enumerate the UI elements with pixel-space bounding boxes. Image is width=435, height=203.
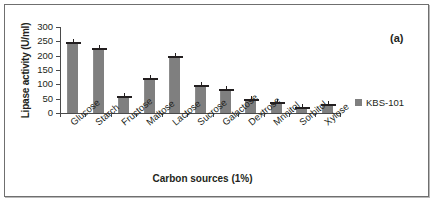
figure-frame: Lipase activity (U/ml) 05010015020025030… — [4, 4, 429, 197]
y-axis-tick-label: 0 — [23, 108, 53, 117]
x-axis-tick — [60, 113, 61, 117]
error-bar-whisker — [73, 39, 74, 43]
error-bar-whisker — [99, 45, 100, 49]
legend-label-kbs-101: KBS-101 — [366, 97, 404, 108]
y-axis-tick-label: 250 — [23, 36, 53, 45]
error-bar-whisker — [226, 86, 227, 90]
y-axis-tick-label: 50 — [23, 94, 53, 103]
y-axis-tick-label: 200 — [23, 51, 53, 60]
error-bar-whisker — [328, 101, 329, 105]
error-bar-whisker — [175, 53, 176, 57]
y-axis-tick-labels: 050100150200250300 — [23, 27, 53, 113]
y-axis-tick — [56, 27, 60, 28]
y-axis-tick-label: 150 — [23, 65, 53, 74]
y-axis-tick-label: 300 — [23, 22, 53, 31]
y-axis-tick — [56, 99, 60, 100]
bar — [67, 43, 78, 113]
error-bar-whisker — [150, 75, 151, 79]
x-axis-title: Carbon sources (1%) — [95, 173, 310, 184]
y-axis-tick — [56, 70, 60, 71]
y-axis-tick — [56, 56, 60, 57]
y-axis-tick — [56, 84, 60, 85]
y-axis-tick — [56, 41, 60, 42]
error-bar-whisker — [201, 82, 202, 86]
legend: KBS-101 — [355, 97, 404, 108]
y-axis-tick-label: 100 — [23, 79, 53, 88]
y-axis-line — [60, 27, 61, 113]
plot-area — [60, 27, 340, 113]
error-bar-whisker — [302, 104, 303, 108]
error-bar-whisker — [124, 93, 125, 97]
legend-swatch-kbs-101 — [355, 99, 362, 106]
panel-label: (a) — [390, 32, 403, 44]
